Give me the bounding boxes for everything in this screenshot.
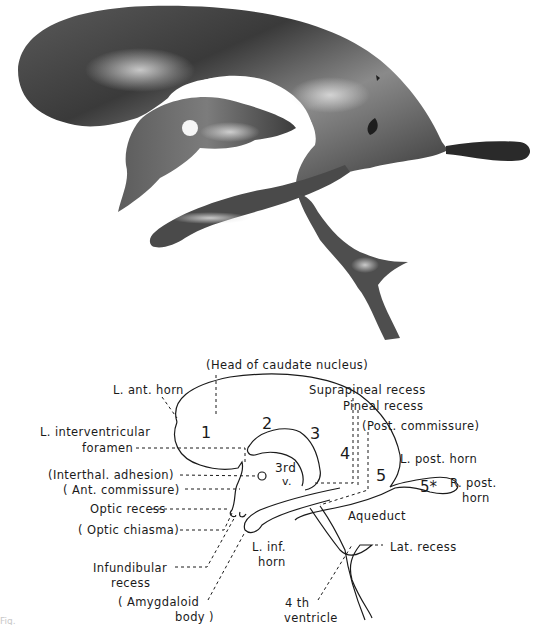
- leader-infundibular: [175, 515, 236, 567]
- label-l-post-horn: L. post. horn: [400, 452, 477, 466]
- leader-ant-horn: [162, 397, 177, 418]
- label-l-inf: L. inf.: [252, 540, 286, 554]
- label-interthal-adhesion: (Interthal. adhesion): [48, 468, 174, 482]
- label-foramen: foramen: [82, 441, 133, 455]
- leader-4th-ventricle: [318, 545, 352, 600]
- leader-post-commissure: [320, 432, 368, 505]
- label-optic-recess: Optic recess: [90, 502, 166, 516]
- region-number-4: 4: [340, 446, 350, 462]
- figure-caption-cutoff: Fig.: [0, 617, 300, 625]
- label-suprapineal: Suprapineal recess: [309, 383, 426, 397]
- label-infundibular-recess: recess: [111, 576, 150, 590]
- label-pineal: Pineal recess: [343, 399, 423, 413]
- region-number-5: 5: [376, 468, 386, 484]
- label-l-ant-horn: L. ant. horn: [113, 383, 184, 397]
- region-number-2: 2: [262, 416, 272, 432]
- label-3rd: 3rd: [275, 461, 296, 475]
- leader-interthal: [180, 475, 258, 476]
- ventricular-cast-photo: [0, 0, 539, 345]
- label-optic-chiasma: ( Optic chiasma): [78, 523, 179, 537]
- label-4th: 4 th: [285, 596, 309, 610]
- label-infundibular: Infundibular: [93, 561, 167, 575]
- label-l-interventricular: L. interventricular: [40, 425, 150, 439]
- region-number-3: 3: [310, 426, 320, 442]
- label-r-post: R. post.: [450, 476, 497, 490]
- leader-optic-chiasma: [180, 513, 232, 530]
- region-number-5-star: 5*: [420, 479, 437, 495]
- label-l-inf-horn: horn: [258, 555, 286, 569]
- label-aqueduct: Aqueduct: [348, 509, 406, 523]
- label-post-commissure: (Post. commissure): [362, 419, 479, 433]
- label-r-post-horn: horn: [462, 491, 490, 505]
- leader-amygdaloid: [208, 532, 245, 600]
- label-ant-commissure: ( Ant. commissure): [63, 483, 180, 497]
- region-number-1: 1: [201, 425, 211, 441]
- label-head-caudate: (Head of caudate nucleus): [206, 358, 368, 372]
- interthalamic-adhesion-circle: [258, 472, 266, 480]
- label-amygdaloid: ( Amygdaloid: [118, 595, 199, 609]
- label-lat-recess: Lat. recess: [390, 540, 457, 554]
- posterior-horn-cast: [446, 141, 530, 161]
- label-3rd-v: v.: [282, 475, 292, 489]
